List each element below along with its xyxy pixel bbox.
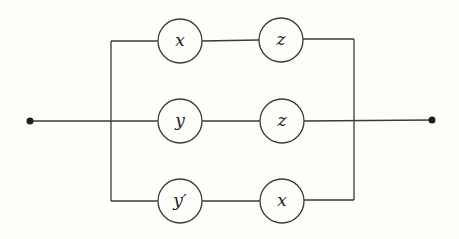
circuit-diagram: x z y z y′ [0,0,459,239]
node-middle-2: z [260,99,304,143]
node-bottom-1: y′ [158,179,202,223]
circuit-svg: x z y z y′ [0,0,459,239]
node-label: z [276,29,287,49]
branch-top: x z [111,18,354,63]
right-terminal-dot [429,117,436,124]
branch-middle: y z [158,99,304,143]
left-terminal-dot [27,118,34,125]
branch-bottom: y′ x [111,179,354,223]
node-label: z [277,110,288,130]
node-top-2: z [259,18,303,62]
node-top-1: x [158,19,202,63]
node-label: y [174,110,185,130]
output-wire [304,120,432,121]
node-label: x [277,190,287,210]
node-bottom-2: x [260,179,304,223]
node-middle-1: y [158,99,202,143]
node-label: y′ [172,190,187,210]
node-label: x [175,30,185,50]
